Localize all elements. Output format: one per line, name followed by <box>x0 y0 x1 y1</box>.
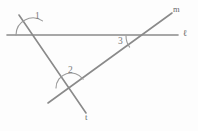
line-t <box>19 15 86 113</box>
geometry-canvas <box>0 0 198 131</box>
geometry-figure: 1 2 3 ℓ t m <box>0 0 198 131</box>
line-m <box>48 13 172 103</box>
line-label-l: ℓ <box>183 29 187 38</box>
angle-label-1: 1 <box>35 12 40 22</box>
angle-label-3: 3 <box>118 37 123 47</box>
line-label-t: t <box>85 113 88 122</box>
angle-label-2: 2 <box>68 66 73 76</box>
line-label-m: m <box>173 5 180 14</box>
